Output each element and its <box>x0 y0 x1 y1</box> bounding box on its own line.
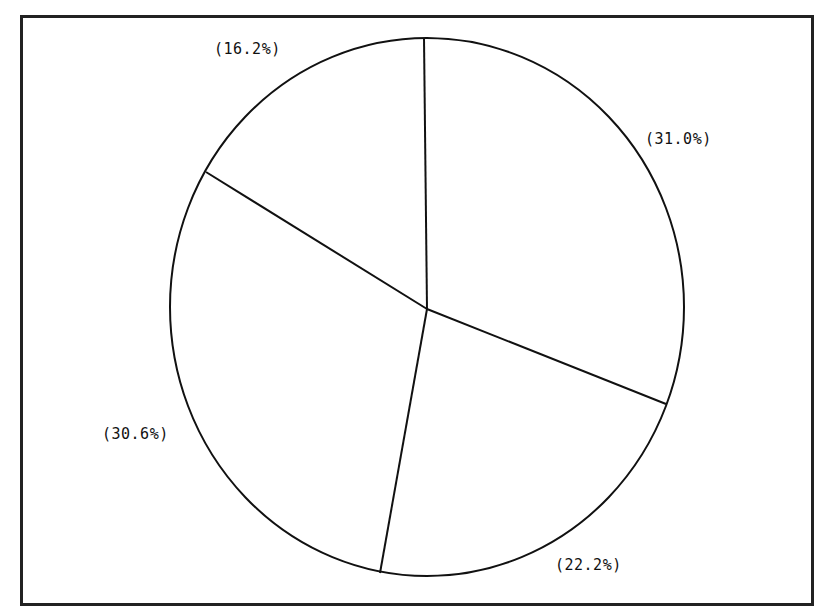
slice-divider-bottom <box>380 309 427 573</box>
slice-label-30-6: (30.6%) <box>102 425 169 443</box>
slice-label-16-2: (16.2%) <box>214 40 281 58</box>
slice-divider-right <box>427 309 666 404</box>
slice-divider-top <box>424 38 427 309</box>
slice-label-31-0: (31.0%) <box>645 130 712 148</box>
slice-label-22-2: (22.2%) <box>555 556 622 574</box>
slice-divider-left <box>206 172 427 309</box>
pie-chart <box>0 0 824 610</box>
